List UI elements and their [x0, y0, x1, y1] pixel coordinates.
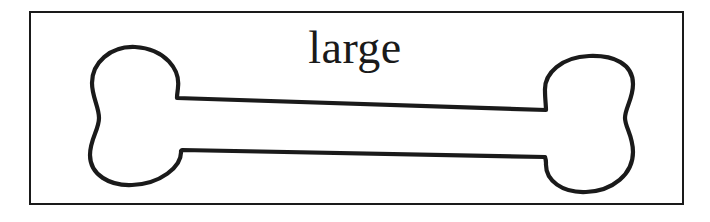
figure-page: large: [0, 0, 710, 222]
figure-caption-label: large: [0, 22, 710, 74]
